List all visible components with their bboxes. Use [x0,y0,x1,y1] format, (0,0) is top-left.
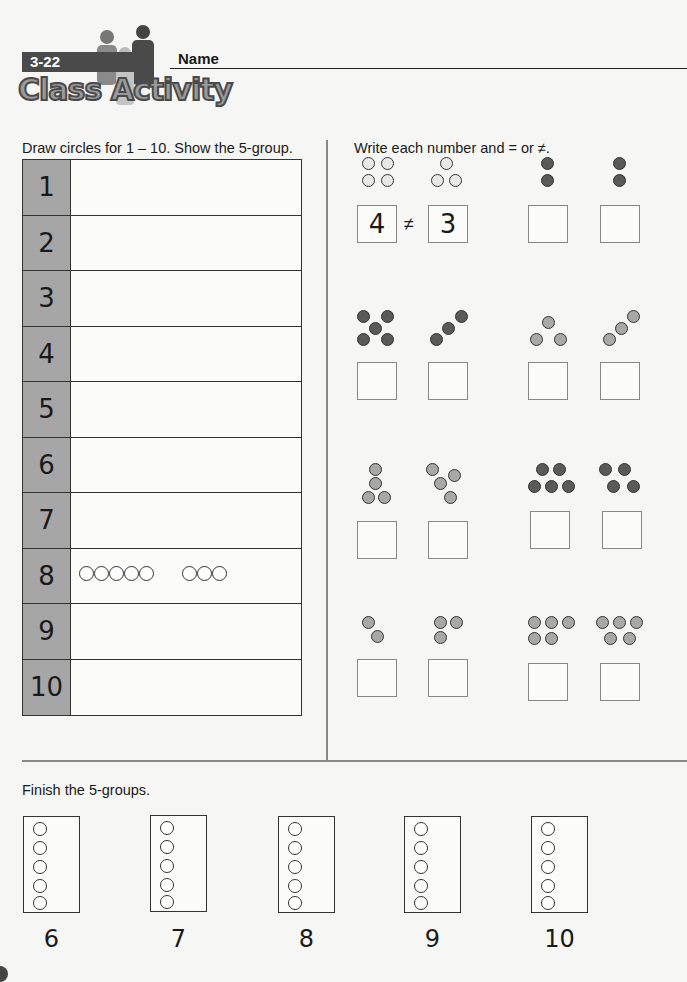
circle-icon [288,822,302,836]
five-group-label: 9 [404,925,461,953]
dot-icon [381,310,394,323]
dot-icon [431,174,444,187]
five-group-box[interactable] [278,816,335,913]
circle-icon [33,822,47,836]
circle-icon [33,860,47,874]
dot-icon [627,480,640,493]
dot-icon [442,322,455,335]
dot-icon [381,157,394,170]
answer-box[interactable]: 4 [357,205,397,243]
dot-icon [553,463,566,476]
circle-icon [414,879,428,893]
answer-box[interactable] [600,362,640,400]
dot-icon [371,630,384,643]
compare-sign: ≠ [404,214,414,235]
dot-icon [378,491,391,504]
dot-icon [450,616,463,629]
dot-icon [599,463,612,476]
five-group-box[interactable] [150,815,207,912]
dot-icon [369,477,382,490]
answer-box[interactable] [600,205,640,243]
answer-box[interactable] [600,663,640,701]
answer-box[interactable] [357,659,397,697]
circle-icon [541,822,555,836]
circle-icon [160,895,174,909]
dot-icon [603,333,616,346]
dot-icon [613,616,626,629]
dot-icon [618,463,631,476]
dot-icon [530,333,543,346]
circle-icon [33,841,47,855]
dot-icon [545,616,558,629]
circle-icon [414,896,428,910]
answer-box[interactable] [602,511,642,549]
dot-icon [426,463,439,476]
dot-icon [362,491,375,504]
dot-icon [554,333,567,346]
answer-box[interactable] [428,362,468,400]
bottom-instruction: Finish the 5-groups. [22,782,150,798]
circle-icon [541,896,555,910]
dot-icon [448,469,461,482]
answer-box[interactable] [528,663,568,701]
dot-icon [357,333,370,346]
circle-icon [414,822,428,836]
answer-box[interactable] [428,521,468,559]
dot-icon [541,157,554,170]
dot-icon [528,632,541,645]
answer-box[interactable] [528,362,568,400]
dot-icon [528,480,541,493]
dot-icon [444,491,457,504]
dot-icon [369,322,382,335]
dot-icon [545,480,558,493]
dot-icon [627,310,640,323]
compare-problems: 4 ≠ 3 [0,0,687,760]
dot-icon [362,616,375,629]
dot-icon [623,632,636,645]
dot-icon [615,322,628,335]
circle-icon [160,821,174,835]
circle-icon [33,879,47,893]
dot-icon [434,631,447,644]
five-group-label: 7 [150,925,207,953]
dot-icon [528,616,541,629]
circle-icon [288,860,302,874]
dot-icon [542,316,555,329]
dot-icon [369,463,382,476]
dot-icon [545,632,558,645]
circle-icon [160,840,174,854]
dot-icon [455,310,468,323]
dot-icon [613,157,626,170]
circle-icon [288,841,302,855]
answer-box[interactable] [357,521,397,559]
dot-icon [541,174,554,187]
five-group-box[interactable] [404,816,461,913]
dot-icon [362,157,375,170]
dot-icon [630,616,643,629]
circle-icon [414,841,428,855]
dot-icon [430,333,443,346]
dot-icon [536,463,549,476]
circle-icon [541,860,555,874]
answer-box[interactable] [428,659,468,697]
answer-box[interactable]: 3 [428,205,468,243]
dot-icon [613,174,626,187]
circle-icon [160,859,174,873]
circle-icon [541,841,555,855]
five-group-label: 10 [531,925,588,953]
five-group-box[interactable] [531,816,588,913]
dot-icon [434,477,447,490]
dot-icon [434,616,447,629]
five-group-label: 6 [23,925,80,953]
circle-icon [160,878,174,892]
circle-icon [541,879,555,893]
answer-box[interactable] [530,511,570,549]
answer-box[interactable] [357,362,397,400]
dot-icon [607,480,620,493]
answer-box[interactable] [528,205,568,243]
dot-icon [381,174,394,187]
page-corner-mark-icon [0,966,8,982]
dot-icon [381,333,394,346]
dot-icon [562,480,575,493]
five-group-box[interactable] [23,816,80,913]
